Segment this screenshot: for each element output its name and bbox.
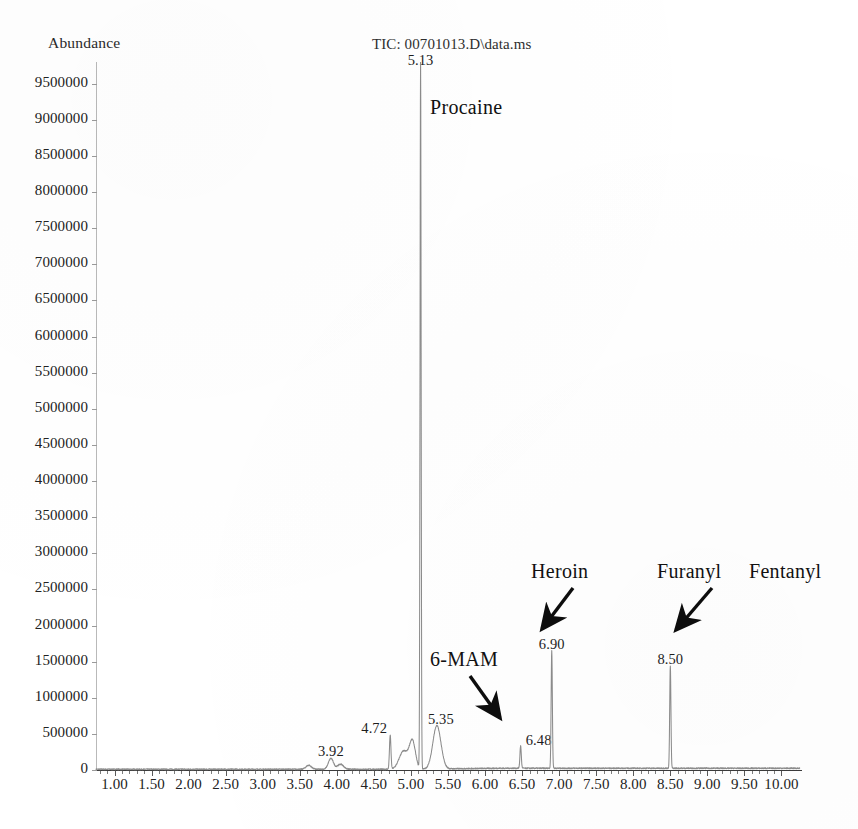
annotation-arrow — [470, 676, 500, 718]
chromatogram-figure: Abundance TIC: 00701013.D\data.ms 050000… — [0, 0, 858, 829]
annotation-arrow — [542, 588, 573, 629]
annotation-arrow — [676, 588, 712, 630]
annotation-arrows — [0, 0, 858, 829]
